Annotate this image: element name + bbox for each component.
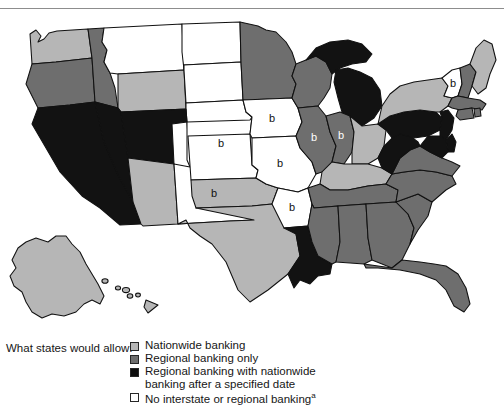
legend-label-none: No interstate or regional bankinga (145, 390, 316, 405)
legend-label-regional-then-nationwide: Regional banking with nationwide (145, 365, 316, 377)
state-ME[interactable] (470, 40, 496, 94)
marker-label-VT: b (450, 77, 456, 89)
state-RI[interactable] (474, 108, 481, 117)
state-CT[interactable] (456, 108, 474, 120)
state-WI[interactable] (292, 56, 332, 108)
marker-label-AR: b (289, 201, 295, 213)
legend-swatch-regional-icon (130, 355, 139, 364)
marker-label-IN: b (338, 129, 344, 141)
state-MN[interactable] (240, 22, 296, 100)
state-HI[interactable] (102, 279, 158, 313)
legend-item-regional-then-nationwide[interactable]: Regional banking with nationwide (130, 365, 490, 377)
state-SD[interactable] (184, 62, 243, 103)
marker-label-NM: b (211, 187, 217, 199)
legend-item-none[interactable]: No interstate or regional bankinga (130, 390, 490, 405)
marker-label-CO: b (218, 137, 224, 149)
legend-swatch-none-icon (130, 393, 139, 402)
legend-swatch-regional-then-nationwide-icon (130, 368, 139, 377)
legend-footnote-marker: a (311, 391, 315, 400)
state-WY[interactable] (118, 70, 186, 112)
legend-swatch-nationwide-icon (130, 342, 139, 351)
marker-label-IL: b (311, 131, 317, 143)
state-MT[interactable] (102, 24, 184, 74)
legend-label-none-text: No interstate or regional banking (145, 393, 311, 405)
marker-label-MO: b (277, 157, 283, 169)
state-AK[interactable] (10, 236, 104, 318)
legend-item-regional[interactable]: Regional banking only (130, 352, 490, 364)
legend-items: Nationwide banking Regional banking only… (130, 339, 490, 406)
us-map-svg: b b b b b b b b (0, 12, 504, 332)
map-legend: What states would allow: Nationwide bank… (6, 339, 498, 393)
state-FL[interactable] (364, 260, 470, 312)
top-divider-rule (0, 8, 504, 9)
state-OR[interactable] (26, 58, 95, 108)
us-map: b b b b b b b b (0, 12, 504, 332)
legend-label-nationwide: Nationwide banking (145, 339, 245, 351)
legend-item-nationwide[interactable]: Nationwide banking (130, 339, 490, 351)
legend-title: What states would allow: (6, 342, 133, 354)
marker-label-IA: b (269, 112, 275, 124)
legend-label-regional: Regional banking only (145, 352, 258, 364)
state-UT[interactable] (121, 109, 187, 164)
legend-label-regional-then-nationwide-line2: banking after a specified date (145, 378, 490, 390)
